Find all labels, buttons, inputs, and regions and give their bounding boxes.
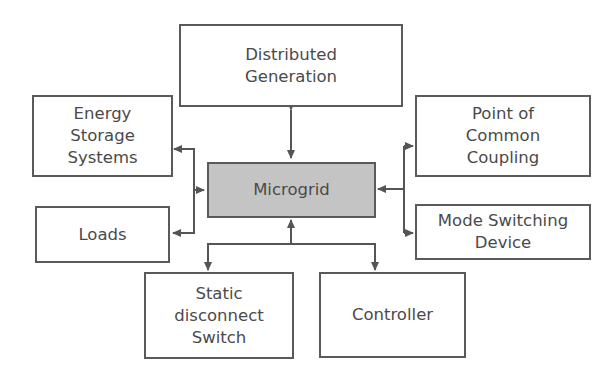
- node-label: Loads: [78, 224, 126, 246]
- node-energy-storage-systems: Energy Storage Systems: [32, 95, 173, 177]
- node-point-of-common-coupling: Point of Common Coupling: [415, 95, 591, 177]
- node-distributed-generation: Distributed Generation: [179, 24, 403, 107]
- node-controller: Controller: [319, 272, 466, 358]
- node-label: Microgrid: [253, 179, 330, 201]
- node-loads: Loads: [35, 206, 170, 263]
- node-microgrid: Microgrid: [207, 162, 376, 218]
- node-label: Controller: [352, 304, 433, 326]
- node-label: Static disconnect Switch: [174, 283, 263, 349]
- node-label: Mode Switching Device: [438, 210, 568, 254]
- node-static-disconnect-switch: Static disconnect Switch: [144, 272, 294, 359]
- node-label: Point of Common Coupling: [466, 103, 540, 169]
- node-label: Energy Storage Systems: [67, 103, 137, 169]
- left-bus-line: [176, 149, 194, 233]
- bottom-bus-line: [208, 244, 375, 268]
- node-label: Distributed Generation: [245, 44, 337, 88]
- node-mode-switching-device: Mode Switching Device: [415, 204, 591, 260]
